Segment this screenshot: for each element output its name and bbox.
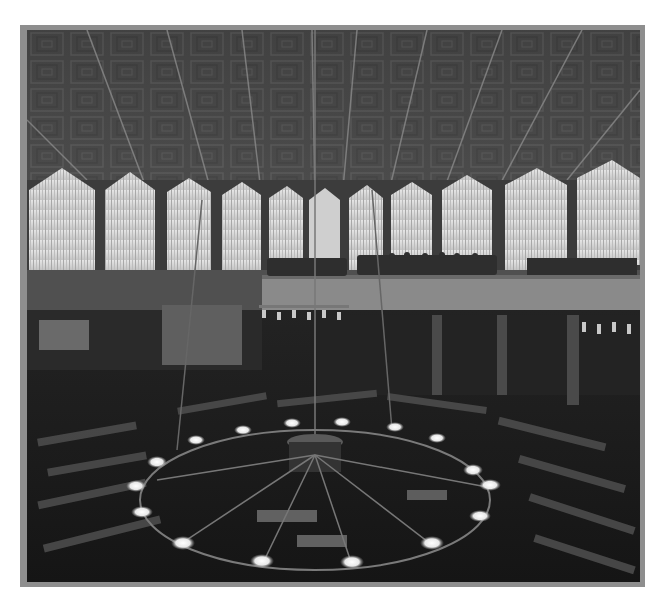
hall-scene [27,30,640,582]
hall-photograph [27,30,640,582]
